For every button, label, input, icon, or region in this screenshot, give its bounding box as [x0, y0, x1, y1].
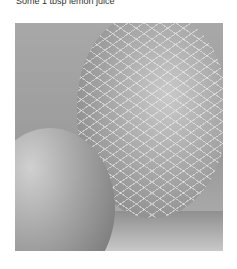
lemon-photo [15, 23, 223, 251]
recipe-caption-text: Some 1 tbsp lemon juice [16, 0, 115, 6]
